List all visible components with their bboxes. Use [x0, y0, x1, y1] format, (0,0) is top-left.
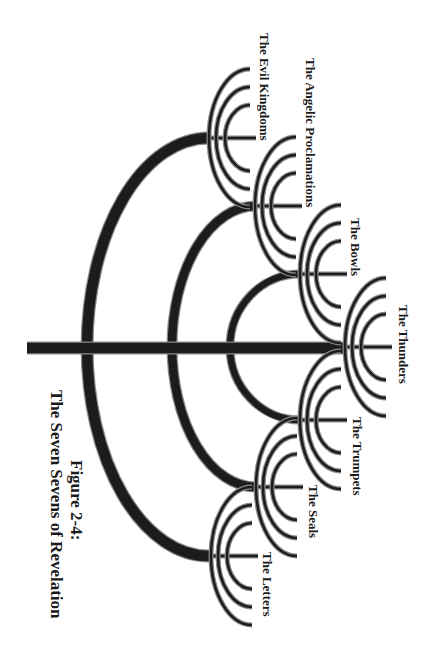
- fan-trumpets: [300, 351, 347, 489]
- label-thunders: The Thunders: [395, 305, 411, 384]
- label-bowls: The Bowls: [347, 218, 363, 276]
- fan-letters: [211, 487, 258, 625]
- figure-number: Figure 2-4:: [66, 460, 86, 540]
- fan-angelic-proclamations: [255, 137, 302, 275]
- fan-seals: [256, 418, 303, 556]
- fan-bowls: [300, 205, 347, 343]
- label-trumpets: The Trumpets: [349, 417, 365, 496]
- figure-title: The Seven Sevens of Revelation: [46, 390, 66, 619]
- fan-evil-kingdoms: [209, 69, 256, 207]
- label-seals: The Seals: [305, 485, 321, 538]
- label-letters: The Letters: [259, 552, 275, 617]
- label-angelic-proclamations: The Angelic Proclamations: [302, 58, 318, 207]
- label-evil-kingdoms: The Evil Kingdoms: [256, 33, 272, 141]
- fan-thunders: [345, 278, 392, 416]
